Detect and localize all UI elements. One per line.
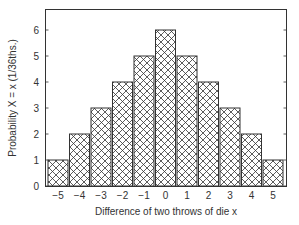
x-tick-label: 4 bbox=[249, 190, 255, 201]
bar bbox=[177, 56, 197, 186]
x-axis-label: Difference of two throws of die x bbox=[95, 206, 237, 217]
y-tick-label: 4 bbox=[33, 77, 39, 88]
bar bbox=[199, 82, 219, 186]
x-tick-label: 0 bbox=[163, 190, 169, 201]
y-tick-label: 6 bbox=[33, 25, 39, 36]
x-axis-ticks: −5−4−3−2−1012345 bbox=[52, 190, 276, 201]
bar bbox=[113, 82, 133, 186]
y-tick-label: 5 bbox=[33, 51, 39, 62]
x-tick-label: 2 bbox=[206, 190, 212, 201]
x-tick-label: −2 bbox=[117, 190, 129, 201]
bar bbox=[220, 108, 240, 186]
x-tick-label: −5 bbox=[52, 190, 64, 201]
bar bbox=[134, 56, 154, 186]
bar bbox=[70, 134, 90, 186]
bar bbox=[48, 160, 68, 186]
bar bbox=[156, 30, 176, 186]
x-tick-label: 1 bbox=[184, 190, 190, 201]
y-tick-label: 1 bbox=[33, 155, 39, 166]
y-axis-label: Probability X = x (1/36ths.) bbox=[7, 39, 18, 157]
x-tick-label: −1 bbox=[138, 190, 150, 201]
bars bbox=[48, 30, 283, 186]
y-tick-label: 3 bbox=[33, 103, 39, 114]
x-tick-label: −3 bbox=[95, 190, 107, 201]
bar bbox=[91, 108, 111, 186]
x-tick-label: 3 bbox=[227, 190, 233, 201]
bar-chart: 0123456 −5−4−3−2−1012345 Difference of t… bbox=[0, 0, 299, 225]
y-tick-label: 2 bbox=[33, 129, 39, 140]
bar bbox=[263, 160, 283, 186]
x-tick-label: −4 bbox=[74, 190, 86, 201]
y-tick-label: 0 bbox=[33, 181, 39, 192]
x-tick-label: 5 bbox=[270, 190, 276, 201]
bar bbox=[242, 134, 262, 186]
